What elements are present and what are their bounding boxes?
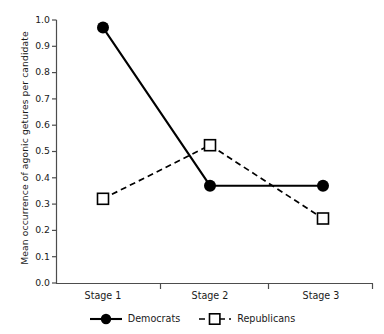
legend-entry-republicans: Republicans: [198, 313, 295, 325]
legend-label-republicans: Republicans: [237, 313, 295, 325]
y-axis-ticks: [52, 20, 57, 283]
plot-area: [0, 0, 384, 334]
x-axis-ticks: [161, 284, 373, 290]
legend-marker-filled-circle-icon: [89, 313, 123, 325]
series-line-democrats: [103, 28, 323, 186]
data-point-republicans-stage-3: [318, 213, 329, 224]
data-point-republicans-stage-2: [205, 140, 216, 151]
legend-marker-open-square-icon: [198, 313, 232, 325]
series-markers-democrats: [97, 22, 329, 192]
data-point-republicans-stage-1: [98, 193, 109, 204]
x-tick-label-stage-2: Stage 2: [165, 290, 255, 302]
data-point-democrats-stage-2: [204, 180, 216, 192]
chart-figure: Mean occurrence of agonic getures per ca…: [0, 0, 384, 334]
legend-label-democrats: Democrats: [128, 313, 180, 325]
data-point-democrats-stage-3: [317, 180, 329, 192]
data-point-democrats-stage-1: [97, 22, 109, 34]
chart-legend: Democrats Republicans: [0, 309, 384, 329]
x-tick-label-stage-1: Stage 1: [58, 290, 148, 302]
x-tick-label-stage-3: Stage 3: [276, 290, 366, 302]
legend-entry-democrats: Democrats: [89, 313, 180, 325]
